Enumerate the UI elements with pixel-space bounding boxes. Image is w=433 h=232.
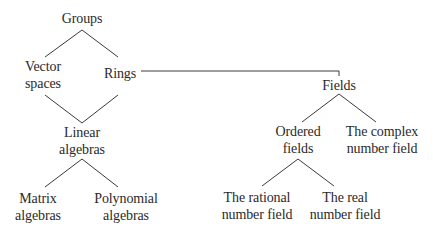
node-label: Ordered (275, 123, 320, 140)
node-label: number field (346, 140, 418, 157)
edge-rings-fields (141, 71, 339, 76)
node-label: spaces (25, 75, 61, 92)
node-vector-spaces: Vector spaces (25, 58, 61, 92)
node-ordered-fields: Ordered fields (275, 123, 320, 157)
node-label: Rings (104, 65, 136, 82)
node-linear-algebras: Linear algebras (59, 124, 105, 158)
node-complex-number-field: The complex number field (346, 123, 418, 157)
node-matrix-algebras: Matrix algebras (15, 190, 61, 224)
node-rings: Rings (104, 65, 136, 82)
edge-linear-matrix (45, 159, 82, 187)
node-label: algebras (15, 207, 61, 224)
edge-ordered-real (298, 159, 334, 186)
edge-vector-spaces-linear (45, 95, 82, 123)
node-polynomial-algebras: Polynomial algebras (94, 190, 158, 224)
node-label: Fields (322, 77, 356, 94)
edge-groups-rings (82, 30, 118, 57)
node-label: Vector (25, 58, 61, 75)
node-label: algebras (59, 141, 105, 158)
node-groups: Groups (62, 10, 103, 27)
node-label: Polynomial (94, 190, 158, 207)
edge-rings-linear (82, 95, 118, 123)
node-label: Groups (62, 10, 103, 27)
node-label: The real (310, 189, 381, 206)
edge-ordered-rational (262, 159, 298, 186)
edge-linear-polynomial (82, 159, 118, 187)
node-label: number field (222, 206, 293, 223)
edge-groups-vector-spaces (45, 30, 82, 57)
node-label: Linear (59, 124, 105, 141)
node-real-number-field: The real number field (310, 189, 381, 223)
node-label: fields (275, 140, 320, 157)
node-label: The rational (222, 189, 293, 206)
node-label: The complex (346, 123, 418, 140)
node-label: number field (310, 206, 381, 223)
node-rational-number-field: The rational number field (222, 189, 293, 223)
node-label: algebras (94, 207, 158, 224)
edge-fields-complex (339, 94, 376, 122)
node-fields: Fields (322, 77, 356, 94)
edge-fields-ordered (302, 94, 339, 122)
node-label: Matrix (15, 190, 61, 207)
